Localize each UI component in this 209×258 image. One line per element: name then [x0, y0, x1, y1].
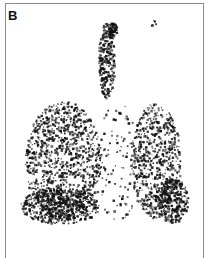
panel-label: B: [8, 9, 17, 22]
upper-right-speck-region: [151, 20, 157, 27]
mediastinum-scatter-region: [94, 106, 145, 220]
lung-scintigraphy-image: [0, 0, 209, 258]
